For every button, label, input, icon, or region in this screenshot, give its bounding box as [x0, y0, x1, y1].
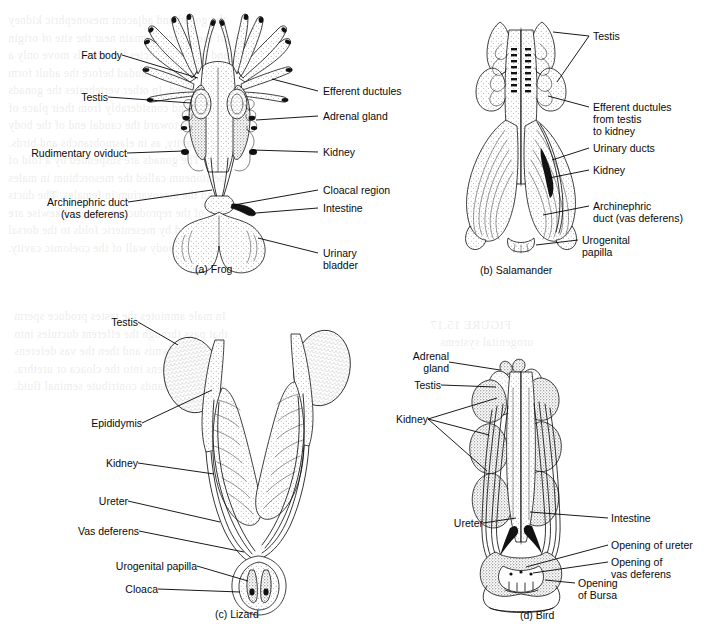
label-frog-archinephric-duct: Archinephric duct (vas deferens)	[4, 196, 128, 220]
label-frog-cloacal-region: Cloacal region	[323, 184, 390, 196]
label-bird-intestine: Intestine	[611, 512, 651, 524]
figure-root: the gonad and adjacent mesonephric kidne…	[0, 0, 720, 635]
label-bird-adrenal-gland: Adrenal gland	[395, 350, 449, 374]
label-lizard-vas-deferens: Vas deferens	[36, 525, 139, 537]
frog-testis-right	[227, 89, 247, 119]
label-salamander-efferent-ductules: Efferent ductules from testis to kidney	[593, 101, 672, 138]
label-frog-urinary-bladder: Urinary bladder	[323, 247, 358, 271]
label-lizard-ureter: Ureter	[48, 495, 128, 507]
label-bird-kidney: Kidney	[378, 413, 428, 425]
label-salamander-urinary-ducts: Urinary ducts	[593, 142, 655, 154]
label-frog-testis: Testis	[14, 91, 108, 103]
label-lizard-kidney: Kidney	[48, 457, 138, 469]
label-salamander-kidney: Kidney	[593, 164, 625, 176]
caption-panel-d: (d) Bird	[520, 609, 554, 621]
label-frog-kidney: Kidney	[323, 146, 355, 158]
panel-b-salamander-artwork	[466, 22, 590, 253]
caption-panel-a: (a) Frog	[195, 263, 232, 275]
frog-testis-left	[191, 89, 211, 119]
caption-panel-b: (b) Salamander	[480, 264, 552, 276]
label-salamander-testis: Testis	[593, 30, 620, 42]
caption-panel-c: (c) Lizard	[215, 608, 259, 620]
label-bird-opening-of-vas-deferens: Opening of vas deferens	[611, 556, 671, 580]
label-lizard-cloaca: Cloaca	[98, 583, 158, 595]
label-frog-fat-body: Fat body	[14, 49, 122, 61]
label-bird-ureter: Ureter	[425, 517, 483, 529]
panel-d-bird-artwork	[428, 359, 608, 612]
label-lizard-urogenital-papilla: Urogenital papilla	[65, 560, 197, 572]
label-salamander-urogenital-papilla: Urogenital papilla	[582, 234, 630, 258]
panel-a-frog-artwork	[108, 14, 318, 273]
label-lizard-epididymis: Epididymis	[38, 417, 142, 429]
label-frog-intestine: Intestine	[323, 202, 363, 214]
label-frog-adrenal-gland: Adrenal gland	[323, 110, 388, 122]
label-lizard-testis: Testis	[48, 316, 138, 328]
label-frog-rudimentary-oviduct: Rudimentary oviduct	[4, 147, 127, 159]
label-bird-opening-of-ureter: Opening of ureter	[611, 539, 693, 551]
label-bird-opening-of-bursa: Opening of Bursa	[578, 577, 618, 601]
label-bird-testis: Testis	[395, 379, 441, 391]
label-frog-efferent-ductules: Efferent ductules	[323, 85, 402, 97]
label-salamander-archinephric-duct: Archinephric duct (vas deferens)	[593, 200, 683, 224]
